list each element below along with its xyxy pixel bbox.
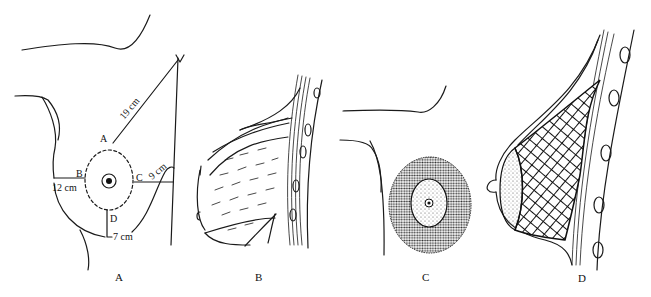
panel-c-label: C xyxy=(422,271,429,283)
panel-c: C xyxy=(340,86,471,283)
measure-19cm: 19 cm xyxy=(117,95,141,121)
point-b-label: B xyxy=(76,168,83,179)
measure-7cm: 7 cm xyxy=(113,231,133,242)
point-d-label: D xyxy=(110,213,117,224)
point-c-label: C xyxy=(136,172,143,183)
measure-9cm: 9 cm xyxy=(146,160,168,181)
panel-a: A B C D 19 cm 12 cm 9 cm 7 cm A xyxy=(15,15,184,283)
panel-b: B xyxy=(197,75,322,283)
measure-12cm: 12 cm xyxy=(52,182,77,193)
point-a-label: A xyxy=(100,133,108,144)
medical-figure: A B C D 19 cm 12 cm 9 cm 7 cm A xyxy=(0,0,651,297)
panel-d: D xyxy=(487,30,634,284)
panel-d-label: D xyxy=(578,272,586,284)
panel-a-label: A xyxy=(115,271,123,283)
panel-b-label: B xyxy=(255,271,262,283)
